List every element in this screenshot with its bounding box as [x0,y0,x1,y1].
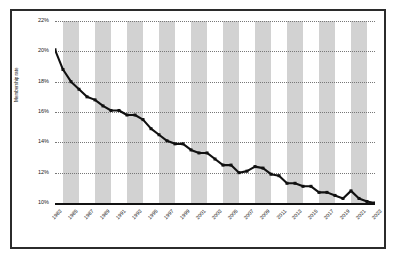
membership-rate-line-series [55,21,375,203]
data-point-marker [278,174,281,177]
data-point-marker [198,151,201,154]
y-axis-tick-labels: 10%12%14%16%18%20%22% [0,21,52,203]
x-tick-label-text: 2013 [291,208,303,220]
data-point-marker [166,139,169,142]
x-tick-label-text: 1989 [99,208,111,220]
data-point-marker [358,197,361,200]
data-point-marker [350,189,353,192]
data-point-marker [342,197,345,200]
x-tick-label-text: 2009 [259,208,271,220]
data-point-marker [182,142,185,145]
x-tick-label-text: 1997 [163,208,175,220]
data-point-marker [214,158,217,161]
data-point-marker [142,118,145,121]
x-tick-label-text: 2011 [275,208,287,220]
x-axis-tick-labels: 1983198519871989199119931995199719992001… [55,203,375,249]
y-tick-label: 20% [38,49,49,55]
x-tick-label-text: 1991 [115,208,127,220]
data-point-marker [302,185,305,188]
data-point-marker [254,165,257,168]
data-point-marker [70,80,73,83]
x-tick-label-text: 2021 [355,208,367,220]
data-point-marker [134,114,137,117]
x-tick-label-text: 2007 [243,208,255,220]
data-point-marker [326,191,329,194]
x-tick-label-text: 2017 [323,208,335,220]
x-tick-label-text: 2019 [339,208,351,220]
series-line [55,50,375,203]
y-tick-label: 18% [38,79,49,85]
x-tick-label-text: 1993 [131,208,143,220]
data-point-marker [78,88,81,91]
data-point-marker [94,98,97,101]
data-point-marker [110,109,113,112]
x-tick-label-text: 1995 [147,208,159,220]
data-point-marker [118,109,121,112]
x-tick-label-text: 1985 [67,208,79,220]
data-point-marker [222,164,225,167]
x-tick-label-text: 2005 [227,208,239,220]
y-tick-label: 12% [38,170,49,176]
x-tick-label-text: 2001 [195,208,207,220]
data-point-marker [158,133,161,136]
data-point-marker [230,164,233,167]
y-tick-label: 14% [38,140,49,146]
plot-area [55,21,375,203]
data-point-marker [262,167,265,170]
y-tick-label: 22% [38,18,49,24]
data-point-marker [62,68,65,71]
data-point-marker [174,142,177,145]
x-tick-label-text: 2015 [307,208,319,220]
data-point-marker [126,114,129,117]
chart-figure: Membership rate 10%12%14%16%18%20%22% 19… [0,0,396,258]
data-point-marker [102,104,105,107]
data-point-marker [150,127,153,130]
data-point-marker [270,173,273,176]
data-point-marker [246,170,249,173]
data-point-marker [286,182,289,185]
x-tick-label-text: 1999 [179,208,191,220]
data-point-marker [294,182,297,185]
x-tick-label-text: 2003 [211,208,223,220]
data-point-marker [310,185,313,188]
data-point-marker [334,194,337,197]
data-point-marker [318,191,321,194]
y-tick-label: 16% [38,109,49,115]
data-point-marker [238,171,241,174]
data-point-marker [55,48,57,51]
data-point-marker [206,151,209,154]
data-point-marker [190,148,193,151]
x-tick-label-text: 1987 [83,208,95,220]
data-point-marker [86,95,89,98]
y-tick-label: 10% [38,200,49,206]
